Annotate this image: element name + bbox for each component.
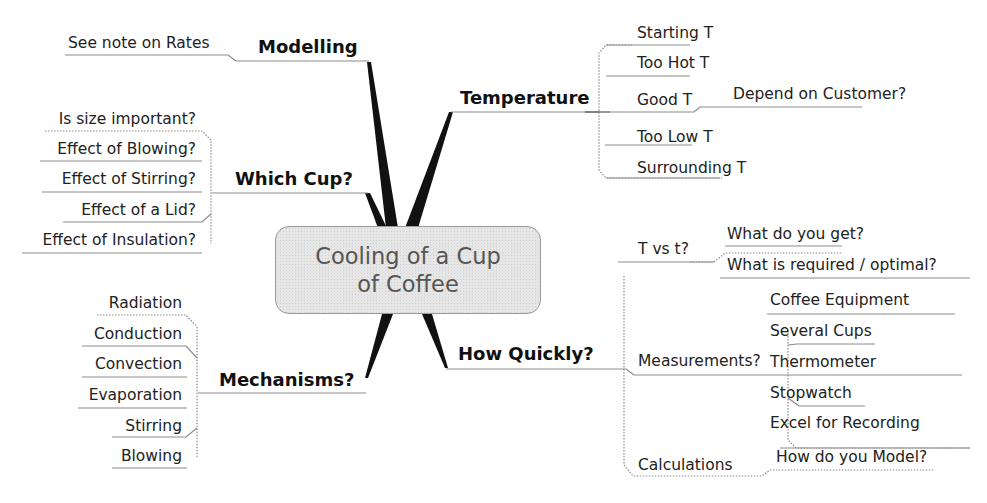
subtopic-what-is-required-optimal[interactable]: What is required / optimal?: [727, 256, 937, 274]
subtopic-what-do-you-get[interactable]: What do you get?: [727, 225, 864, 243]
subtopic-measurements[interactable]: Measurements?: [638, 352, 761, 370]
spoke-temperature: [405, 112, 453, 228]
subtopic-excel-for-recording[interactable]: Excel for Recording: [770, 414, 920, 432]
subtopic-effect-of-insulation[interactable]: Effect of Insulation?: [43, 231, 196, 249]
subtopic-see-note-on-rates[interactable]: See note on Rates: [68, 34, 210, 52]
subtopic-is-size-important[interactable]: Is size important?: [59, 110, 196, 128]
central-topic[interactable]: Cooling of a Cup of Coffee: [275, 226, 541, 314]
subtopic-thermometer[interactable]: Thermometer: [770, 353, 876, 371]
subtopic-radiation[interactable]: Radiation: [109, 294, 182, 312]
topic-mechanisms[interactable]: Mechanisms?: [219, 369, 354, 391]
subtopic-coffee-equipment[interactable]: Coffee Equipment: [770, 291, 909, 309]
topic-temperature[interactable]: Temperature: [460, 87, 589, 109]
subtopic-stirring[interactable]: Stirring: [125, 417, 182, 435]
spoke-how-quickly: [422, 314, 448, 368]
subtopic-t-vs-t[interactable]: T vs t?: [638, 240, 689, 258]
topic-which-cup[interactable]: Which Cup?: [235, 168, 353, 190]
subtopic-good-t[interactable]: Good T: [637, 91, 692, 109]
central-topic-line2: of Coffee: [357, 270, 459, 298]
subtopic-effect-of-a-lid[interactable]: Effect of a Lid?: [81, 201, 196, 219]
subtopic-conduction[interactable]: Conduction: [94, 325, 182, 343]
subtopic-calculations[interactable]: Calculations: [638, 456, 733, 474]
subtopic-convection[interactable]: Convection: [95, 355, 182, 373]
subtopic-how-do-you-model[interactable]: How do you Model?: [776, 448, 927, 466]
subtopic-effect-of-stirring[interactable]: Effect of Stirring?: [62, 170, 196, 188]
central-topic-line1: Cooling of a Cup: [315, 242, 500, 270]
subtopic-too-low-t[interactable]: Too Low T: [637, 128, 713, 146]
subtopic-effect-of-blowing[interactable]: Effect of Blowing?: [57, 140, 196, 158]
spoke-mechanisms: [365, 314, 393, 378]
subtopic-surrounding-t[interactable]: Surrounding T: [637, 159, 746, 177]
topic-modelling[interactable]: Modelling: [258, 36, 358, 58]
subtopic-evaporation[interactable]: Evaporation: [89, 386, 182, 404]
subtopic-starting-t[interactable]: Starting T: [637, 24, 713, 42]
subtopic-stopwatch[interactable]: Stopwatch: [770, 384, 852, 402]
subtopic-several-cups[interactable]: Several Cups: [770, 322, 872, 340]
mind-map-canvas: Cooling of a Cup of Coffee Modelling See…: [0, 0, 987, 503]
subtopic-blowing[interactable]: Blowing: [121, 447, 182, 465]
subtopic-depend-on-customer[interactable]: Depend on Customer?: [733, 85, 906, 103]
subtopic-too-hot-t[interactable]: Too Hot T: [637, 54, 709, 72]
topic-how-quickly[interactable]: How Quickly?: [458, 343, 594, 365]
